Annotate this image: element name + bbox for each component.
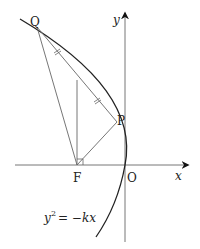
segment-qf <box>37 27 77 165</box>
equation-rhs: = −kx <box>58 211 96 225</box>
label-y-axis: y <box>112 13 120 27</box>
segment-fp <box>77 122 117 165</box>
label-q: Q <box>30 15 40 29</box>
parabola-curve <box>20 19 127 237</box>
parabola-diagram: Q P F O x y y 2 = −kx <box>0 0 200 249</box>
equation-lhs: y <box>43 211 51 225</box>
equation-exponent: 2 <box>51 209 56 218</box>
label-f: F <box>73 171 81 185</box>
label-x-axis: x <box>175 169 182 183</box>
label-origin: O <box>127 171 137 185</box>
label-p: P <box>117 114 125 128</box>
